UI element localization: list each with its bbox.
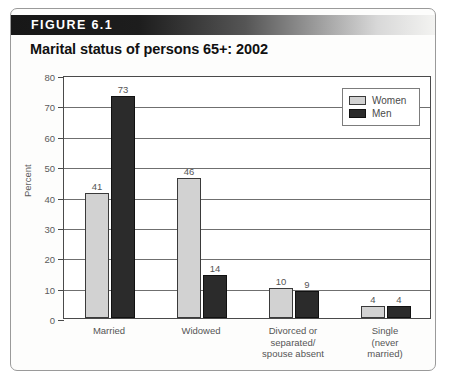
y-tick-label: 10 <box>44 284 55 295</box>
y-tick <box>58 320 64 321</box>
y-tick <box>58 259 64 260</box>
y-tick <box>58 138 64 139</box>
x-axis-label-3: Single(nevermarried) <box>367 325 402 360</box>
bar-women-3 <box>361 306 385 318</box>
bar-men-2 <box>295 291 319 318</box>
y-tick <box>58 107 64 108</box>
x-axis-label-2: Divorced orseparated/spouse absent <box>262 325 324 360</box>
bar-value-men-1: 14 <box>210 263 221 274</box>
legend-item-men: Men <box>349 107 413 120</box>
bar-women-1 <box>177 178 201 318</box>
bar-value-women-3: 4 <box>370 294 375 305</box>
y-tick-label: 70 <box>44 102 55 113</box>
bar-value-women-2: 10 <box>276 276 287 287</box>
legend-label-women: Women <box>372 95 406 106</box>
y-tick <box>58 290 64 291</box>
plot-area: 01020304050607080 4173461410944 Women Me… <box>63 76 431 319</box>
bar-value-men-0: 73 <box>118 84 129 95</box>
y-tick-label: 40 <box>44 193 55 204</box>
legend-label-men: Men <box>372 108 391 119</box>
y-tick <box>58 168 64 169</box>
bar-men-3 <box>387 306 411 318</box>
y-tick-label: 30 <box>44 223 55 234</box>
bar-value-men-3: 4 <box>396 294 401 305</box>
bar-value-men-2: 9 <box>304 279 309 290</box>
bar-women-2 <box>269 288 293 318</box>
x-axis-label-0: Married <box>93 325 125 337</box>
y-tick-label: 0 <box>50 315 55 326</box>
legend-item-women: Women <box>349 94 413 107</box>
y-tick <box>58 199 64 200</box>
bar-value-women-0: 41 <box>92 181 103 192</box>
y-tick <box>58 229 64 230</box>
chart-area: Percent 01020304050607080 4173461410944 … <box>11 9 436 371</box>
y-tick-label: 60 <box>44 132 55 143</box>
bar-men-1 <box>203 275 227 318</box>
legend-swatch-women-icon <box>349 96 366 105</box>
figure-frame: FIGURE 6.1 Marital status of persons 65+… <box>10 8 436 371</box>
legend-swatch-men-icon <box>349 109 366 118</box>
y-tick <box>58 77 64 78</box>
y-axis-title: Percent <box>22 164 33 197</box>
legend: Women Men <box>342 88 420 126</box>
x-axis-label-1: Widowed <box>181 325 220 337</box>
y-tick-label: 80 <box>44 72 55 83</box>
y-tick-label: 50 <box>44 163 55 174</box>
bar-value-women-1: 46 <box>184 166 195 177</box>
y-tick-label: 20 <box>44 254 55 265</box>
bar-women-0 <box>85 193 109 318</box>
bar-men-0 <box>111 96 135 318</box>
